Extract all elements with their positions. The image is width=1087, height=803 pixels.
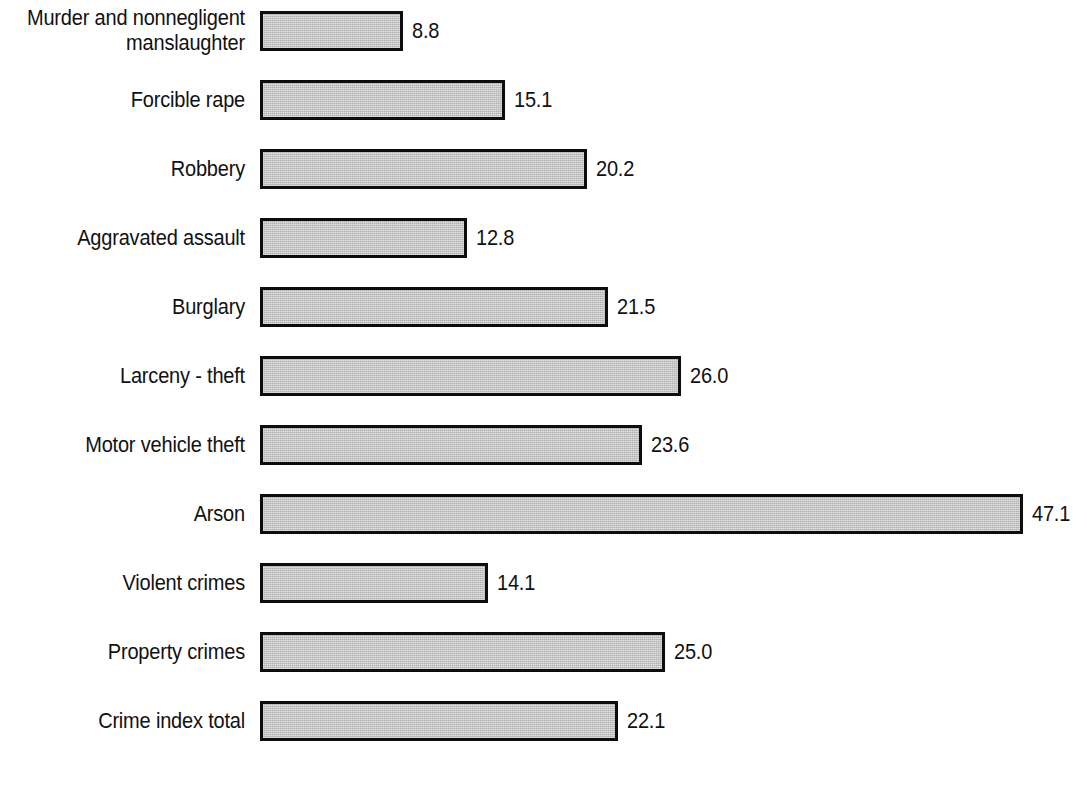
category-label: Arson <box>17 502 245 527</box>
bar-value-label: 15.1 <box>514 88 552 112</box>
category-label: Violent crimes <box>17 571 245 596</box>
bar-row: Murder and nonnegligent manslaughter8.8 <box>0 8 1087 54</box>
bar-and-value: 14.1 <box>260 560 538 606</box>
bar-value-label: 26.0 <box>690 364 728 388</box>
bar <box>260 149 587 189</box>
bar-value-label: 14.1 <box>497 571 535 595</box>
bar-row: Aggravated assault12.8 <box>0 215 1087 261</box>
bar-row: Motor vehicle theft23.6 <box>0 422 1087 468</box>
bar-row: Arson47.1 <box>0 491 1087 537</box>
bar <box>260 287 608 327</box>
bar-and-value: 26.0 <box>260 353 731 399</box>
bar-value-label: 20.2 <box>596 157 634 181</box>
bar-value-label: 21.5 <box>617 295 655 319</box>
bar <box>260 356 681 396</box>
bar-and-value: 22.1 <box>260 698 668 744</box>
category-label: Robbery <box>17 157 245 182</box>
bar-and-value: 20.2 <box>260 146 637 192</box>
category-label: Motor vehicle theft <box>17 433 245 458</box>
bar-value-label: 8.8 <box>412 19 439 43</box>
category-label: Crime index total <box>17 709 245 734</box>
bar-row: Burglary21.5 <box>0 284 1087 330</box>
category-label: Burglary <box>17 295 245 320</box>
bar-value-label: 12.8 <box>476 226 514 250</box>
bar-row: Larceny - theft26.0 <box>0 353 1087 399</box>
bar-row: Crime index total22.1 <box>0 698 1087 744</box>
category-label: Aggravated assault <box>17 226 245 251</box>
bar <box>260 632 665 672</box>
bar-and-value: 21.5 <box>260 284 658 330</box>
category-label: Murder and nonnegligent manslaughter <box>17 6 245 56</box>
bar-chart: Murder and nonnegligent manslaughter8.8F… <box>0 0 1087 803</box>
bar <box>260 218 467 258</box>
bar-row: Property crimes25.0 <box>0 629 1087 675</box>
bar-and-value: 47.1 <box>260 491 1073 537</box>
bar <box>260 494 1023 534</box>
category-label: Property crimes <box>17 640 245 665</box>
bar <box>260 425 642 465</box>
bar-row: Violent crimes14.1 <box>0 560 1087 606</box>
category-label: Forcible rape <box>17 88 245 113</box>
bar-row: Robbery20.2 <box>0 146 1087 192</box>
bar <box>260 80 505 120</box>
category-label: Larceny - theft <box>17 364 245 389</box>
bar-and-value: 12.8 <box>260 215 517 261</box>
bar-and-value: 8.8 <box>260 8 441 54</box>
bar-value-label: 25.0 <box>674 640 712 664</box>
bar-and-value: 25.0 <box>260 629 715 675</box>
bar-value-label: 23.6 <box>651 433 689 457</box>
bar <box>260 701 618 741</box>
bar <box>260 563 488 603</box>
bar-value-label: 22.1 <box>627 709 665 733</box>
bar-and-value: 15.1 <box>260 77 555 123</box>
bar <box>260 11 403 51</box>
bar-row: Forcible rape15.1 <box>0 77 1087 123</box>
bar-value-label: 47.1 <box>1032 502 1070 526</box>
bar-and-value: 23.6 <box>260 422 692 468</box>
